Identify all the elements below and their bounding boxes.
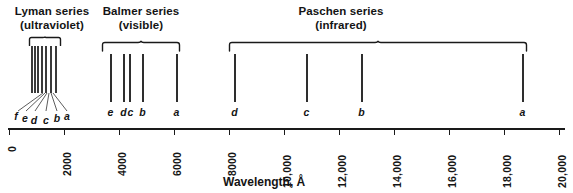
axis-tick: [119, 128, 120, 135]
lyman-spectral-line: [31, 46, 33, 93]
lyman-line-label-a: a: [62, 110, 72, 122]
axis-tick-label: 14,000: [391, 155, 403, 188]
lyman-spectral-line: [34, 46, 36, 93]
balmer-line-label-a: a: [171, 106, 182, 118]
lyman-title-line1: Lyman series: [15, 5, 89, 17]
lyman-spectral-line: [41, 46, 43, 93]
axis-title: Wavelength, Å: [223, 175, 305, 189]
balmer-series-title: Balmer series (visible): [88, 5, 194, 32]
lyman-line-label-d: d: [29, 114, 39, 126]
axis-tick-label: 0: [6, 146, 18, 152]
paschen-line-label-d: d: [229, 106, 240, 118]
lyman-line-label-c: c: [41, 114, 51, 126]
paschen-title-line1: Paschen series: [298, 5, 383, 17]
axis-tick-label: 12,000: [336, 155, 348, 188]
paschen-line-label-c: c: [301, 106, 312, 118]
paschen-line-label-a: a: [517, 106, 528, 118]
paschen-title-line2: (infrared): [282, 19, 400, 33]
lyman-spectral-line: [37, 46, 39, 93]
balmer-line-label-e: e: [105, 106, 116, 118]
paschen-spectral-line-c: [306, 54, 308, 102]
lyman-bracket: [28, 36, 62, 46]
axis-tick-label: 2000: [61, 152, 73, 176]
lyman-line-label-b: b: [52, 112, 62, 124]
axis-tick-label: 4000: [116, 152, 128, 176]
balmer-spectral-line-e: [110, 54, 112, 102]
balmer-line-label-c: c: [125, 106, 136, 118]
axis-tick: [504, 128, 505, 135]
balmer-bracket: [101, 40, 181, 52]
axis-tick: [64, 128, 65, 135]
lyman-spectral-line: [45, 46, 47, 93]
axis-tick-label: 8000: [226, 152, 238, 176]
balmer-title-line1: Balmer series: [103, 5, 180, 17]
balmer-spectral-line-d: [123, 54, 125, 102]
paschen-series-title: Paschen series (infrared): [282, 5, 400, 32]
axis-tick: [339, 128, 340, 135]
paschen-spectral-line-d: [234, 54, 236, 102]
balmer-spectral-line-b: [142, 54, 144, 102]
balmer-spectral-line-c: [129, 54, 131, 102]
axis-tick: [449, 128, 450, 135]
balmer-line-label-b: b: [137, 106, 148, 118]
axis-tick: [174, 128, 175, 135]
axis-tick: [229, 128, 230, 135]
axis-tick: [394, 128, 395, 135]
axis-tick: [9, 128, 10, 135]
balmer-title-line2: (visible): [88, 19, 194, 33]
axis-tick-label: 6000: [171, 152, 183, 176]
spectral-series-diagram: Lyman series (ultraviolet) Balmer series…: [0, 0, 573, 193]
lyman-spectral-line: [55, 46, 57, 93]
axis-tick: [284, 128, 285, 135]
paschen-bracket: [228, 40, 528, 52]
wavelength-axis-line: [8, 128, 565, 130]
paschen-spectral-line-b: [361, 54, 363, 102]
axis-tick: [559, 128, 560, 135]
balmer-spectral-line-a: [176, 54, 178, 102]
axis-tick-label: 20,000: [556, 155, 568, 188]
axis-tick-label: 16,000: [446, 155, 458, 188]
paschen-line-label-b: b: [356, 106, 367, 118]
axis-tick-label: 18,000: [501, 155, 513, 188]
paschen-spectral-line-a: [522, 54, 524, 102]
lyman-spectral-line: [50, 46, 52, 93]
